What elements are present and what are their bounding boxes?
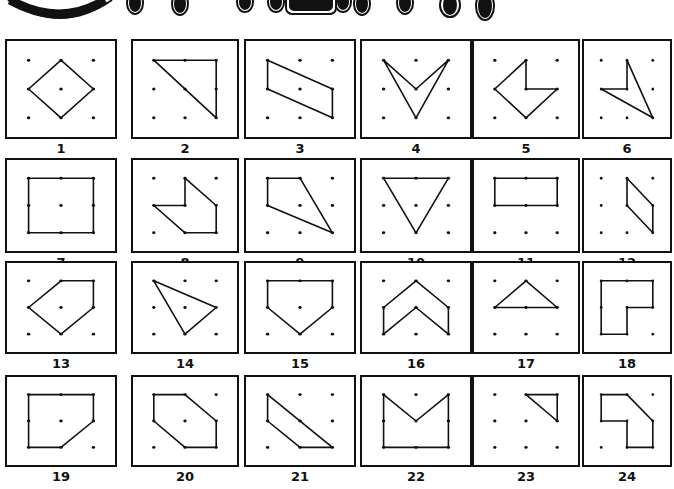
peg-dot (556, 279, 559, 282)
board-number: 1 (5, 141, 117, 156)
shape-drawing (133, 377, 237, 465)
peg-dot (600, 446, 603, 449)
peg-dot (556, 446, 559, 449)
peg-dot (92, 446, 95, 449)
board-frame (5, 158, 117, 253)
board-frame (472, 261, 580, 354)
peg-dot (215, 279, 218, 282)
geoboard-24: 24 (582, 375, 672, 489)
peg-dot (493, 116, 496, 119)
geoboard-16: 16 (360, 261, 472, 376)
peg-dot (215, 177, 218, 180)
peg-dot (152, 333, 155, 336)
peg-dot (183, 116, 186, 119)
shape-drawing (474, 377, 578, 465)
board-frame (472, 39, 580, 139)
board-number: 4 (360, 141, 472, 156)
geoboard-9: 9 (244, 158, 356, 275)
peg-dot (382, 279, 385, 282)
geoboard-8: 8 (131, 158, 239, 275)
board-number: 19 (5, 469, 117, 484)
board-frame (360, 39, 472, 139)
peg-dot (298, 116, 301, 119)
shape-drawing (246, 377, 354, 465)
shape-drawing (474, 160, 578, 251)
board-number: 21 (244, 469, 356, 484)
peg-dot (298, 59, 301, 62)
board-frame (582, 158, 672, 253)
shape-drawing (362, 41, 470, 137)
rubber-band-shape (384, 60, 449, 118)
shape-drawing (474, 263, 578, 352)
geoboard-14: 14 (131, 261, 239, 376)
peg-dot (651, 333, 654, 336)
peg-dot (651, 87, 654, 90)
peg-dot (266, 231, 269, 234)
shape-drawing (584, 377, 670, 465)
board-number: 23 (472, 469, 580, 484)
geoboard-15: 15 (244, 261, 356, 376)
shape-drawing (362, 160, 470, 251)
peg-dot (493, 231, 496, 234)
peg-dot (447, 87, 450, 90)
peg-dot (27, 116, 30, 119)
peg-dot (447, 231, 450, 234)
board-frame (472, 158, 580, 253)
board-frame (244, 261, 356, 354)
peg-dot (493, 446, 496, 449)
shape-drawing (474, 41, 578, 137)
peg-dot (27, 279, 30, 282)
shape-drawing (362, 263, 470, 352)
peg-dot (92, 116, 95, 119)
peg-dot (298, 87, 301, 90)
peg-dot (331, 393, 334, 396)
peg-dot (183, 279, 186, 282)
board-number: 5 (472, 141, 580, 156)
geoboard-7: 7 (5, 158, 117, 275)
peg-dot (92, 59, 95, 62)
peg-dot (59, 420, 62, 423)
peg-dot (447, 279, 450, 282)
board-frame (360, 375, 472, 467)
board-frame (582, 261, 672, 354)
shape-drawing (246, 263, 354, 352)
geoboard-21: 21 (244, 375, 356, 489)
peg-dot (556, 333, 559, 336)
peg-dot (414, 393, 417, 396)
peg-dot (447, 204, 450, 207)
board-frame (131, 375, 239, 467)
peg-dot (266, 333, 269, 336)
peg-dot (556, 59, 559, 62)
geoboard-3: 3 (244, 39, 356, 161)
peg-dot (331, 420, 334, 423)
board-number: 20 (131, 469, 239, 484)
geoboard-18: 18 (582, 261, 672, 376)
peg-dot (600, 177, 603, 180)
geoboard-19: 19 (5, 375, 117, 489)
geoboard-2: 2 (131, 39, 239, 161)
board-number: 2 (131, 141, 239, 156)
peg-dot (493, 393, 496, 396)
geoboard-12: 12 (582, 158, 672, 275)
board-frame (5, 375, 117, 467)
peg-dot (414, 333, 417, 336)
board-frame (244, 39, 356, 139)
peg-dot (524, 333, 527, 336)
rubber-band-shape (627, 178, 653, 233)
peg-dot (493, 279, 496, 282)
peg-dot (298, 393, 301, 396)
rubber-band-shape (268, 395, 333, 448)
shape-drawing (7, 377, 115, 465)
peg-dot (600, 204, 603, 207)
peg-dot (382, 87, 385, 90)
board-number: 24 (582, 469, 672, 484)
geoboard-23: 23 (472, 375, 580, 489)
peg-dot (414, 59, 417, 62)
peg-dot (92, 333, 95, 336)
shape-drawing (362, 377, 470, 465)
peg-dot (298, 306, 301, 309)
rubber-band-shape (384, 281, 449, 334)
board-frame (472, 375, 580, 467)
peg-dot (556, 231, 559, 234)
shape-drawing (7, 263, 115, 352)
